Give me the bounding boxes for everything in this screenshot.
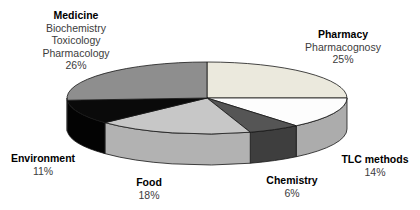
slice-title-medicine: Medicine <box>42 9 109 22</box>
slice-sublabel: Toxicology <box>42 34 109 47</box>
slice-percent-food: 18% <box>136 189 162 202</box>
label-chemistry: Chemistry 6% <box>266 174 317 199</box>
label-environment: Environment 11% <box>11 152 75 177</box>
slice-sublabel: Biochemistry <box>42 22 109 35</box>
slice-title-tlc-methods: TLC methods <box>341 153 408 166</box>
slice-title-environment: Environment <box>11 152 75 165</box>
slice-percent-tlc-methods: 14% <box>341 166 408 179</box>
slice-title-chemistry: Chemistry <box>266 174 317 187</box>
pie-chart-figure: Medicine Biochemistry Toxicology Pharmac… <box>0 0 420 210</box>
slice-percent-medicine: 26% <box>42 59 109 72</box>
label-tlc-methods: TLC methods 14% <box>341 153 408 178</box>
slice-title-food: Food <box>136 176 162 189</box>
slice-percent-chemistry: 6% <box>266 187 317 200</box>
slice-title-pharmacy: Pharmacy <box>305 28 381 41</box>
slice-sublabel: Pharmacology <box>42 47 109 60</box>
label-food: Food 18% <box>136 176 162 201</box>
slice-sublabel: Pharmacognosy <box>305 41 381 54</box>
slice-percent-pharmacy: 25% <box>305 53 381 66</box>
pie-slice-pharmacy <box>207 62 347 98</box>
label-medicine: Medicine Biochemistry Toxicology Pharmac… <box>42 9 109 72</box>
slice-percent-environment: 11% <box>11 165 75 178</box>
label-pharmacy: Pharmacy Pharmacognosy 25% <box>305 28 381 66</box>
